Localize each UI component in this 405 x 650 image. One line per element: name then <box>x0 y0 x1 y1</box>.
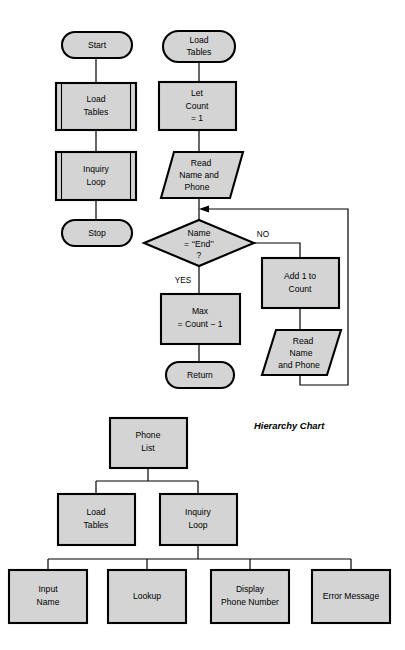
max-count-label-line1: Max <box>192 306 209 316</box>
load-tables-label-line1: Load <box>86 94 105 104</box>
hierarchy-inquiry-loop-label-line2: Loop <box>188 520 207 530</box>
node-load-tables: Load Tables <box>56 83 136 130</box>
hierarchy-node-input-name: Input Name <box>9 570 87 623</box>
inquiry-loop-label-line1: Inquiry <box>83 164 109 174</box>
node-subroutine-header: Load Tables <box>163 31 235 62</box>
add1-shape-fill <box>262 258 339 308</box>
input-name-label-line2: Name <box>37 597 60 607</box>
display-phone-number-label-line1: Display <box>236 584 265 594</box>
connector-decision-no-to-add1 <box>254 243 300 258</box>
node-max-count: Max = Count − 1 <box>161 294 240 344</box>
hierarchy-node-error-message: Error Message <box>312 570 390 623</box>
lookup-label: Lookup <box>133 591 161 601</box>
node-read-name-phone-1: Read Name and Phone <box>161 152 243 198</box>
phone-list-label-line1: Phone <box>136 430 161 440</box>
node-read-name-phone-2: Read Name and Phone <box>262 330 341 375</box>
read1-label-line3: Phone <box>185 182 210 192</box>
read2-label-line1: Read <box>293 336 314 346</box>
read2-label-line3: and Phone <box>278 360 320 370</box>
node-add-1-to-count: Add 1 to Count <box>262 258 339 308</box>
stop-label: Stop <box>88 228 106 238</box>
load-tables-label-line2: Tables <box>84 107 109 117</box>
loopback-arrowhead <box>199 205 209 212</box>
hierarchy-chart-title: Hierarchy Chart <box>254 420 325 431</box>
node-return: Return <box>166 362 234 388</box>
node-inquiry-loop: Inquiry Loop <box>56 152 136 200</box>
add1-label-line2: Count <box>289 284 313 294</box>
start-label: Start <box>88 40 107 50</box>
read1-label-line2: Name and <box>179 170 219 180</box>
decision-label-line1: Name <box>188 228 211 238</box>
let-count-label-line2: Count <box>186 101 210 111</box>
node-let-count: Let Count = 1 <box>159 82 236 130</box>
hierarchy-node-lookup: Lookup <box>108 570 186 623</box>
subroutine-header-label-line1: Load <box>189 35 208 45</box>
hierarchy-load-tables-label-line2: Tables <box>84 520 109 530</box>
return-label: Return <box>187 370 213 380</box>
hierarchy-node-phone-list: Phone List <box>110 418 187 468</box>
flowchart-diagram-canvas: Start Load Tables Inquiry Loop Stop <box>0 0 405 650</box>
subroutine-header-label-line2: Tables <box>187 47 212 57</box>
display-phone-number-label-line2: Phone Number <box>221 597 279 607</box>
input-name-label-line1: Input <box>38 584 58 594</box>
decision-branch-label-no: NO <box>257 230 269 239</box>
hierarchy-inquiry-loop-label-line1: Inquiry <box>185 507 211 517</box>
read1-label-line1: Read <box>191 158 212 168</box>
decision-label-line2: = ‘‘End’’ <box>184 239 214 249</box>
read2-label-line2: Name <box>290 348 313 358</box>
node-stop: Stop <box>62 220 132 246</box>
hierarchy-node-inquiry-loop: Inquiry Loop <box>160 494 237 545</box>
decision-label-line3: ? <box>197 250 202 260</box>
error-message-label: Error Message <box>323 591 380 601</box>
let-count-label-line3: = 1 <box>191 113 203 123</box>
node-decision-name-end: Name = ‘‘End’’ ? <box>144 220 254 266</box>
hierarchy-load-tables-label-line1: Load <box>86 507 105 517</box>
hierarchy-node-display-phone-number: Display Phone Number <box>211 570 289 623</box>
hierarchy-node-load-tables: Load Tables <box>58 494 135 545</box>
phone-list-label-line2: List <box>141 443 155 453</box>
let-count-label-line1: Let <box>191 88 204 98</box>
node-start: Start <box>62 32 132 58</box>
add1-label-line1: Add 1 to <box>284 271 316 281</box>
inquiry-loop-label-line2: Loop <box>86 177 105 187</box>
max-count-label-line2: = Count − 1 <box>178 319 223 329</box>
decision-branch-label-yes: YES <box>175 276 192 285</box>
diagram-svg: Start Load Tables Inquiry Loop Stop <box>0 0 405 650</box>
